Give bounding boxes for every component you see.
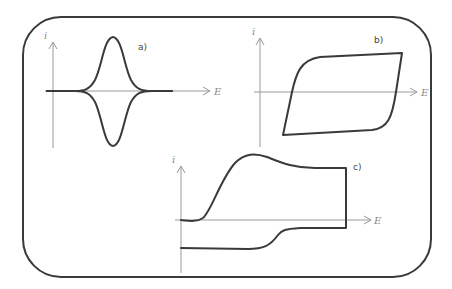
panel-a-label: a) — [138, 42, 147, 52]
panel-c-voltammogram — [181, 155, 346, 249]
panel-a: i E a) — [44, 30, 222, 148]
panel-a-y-axis-label: i — [44, 30, 47, 41]
panel-a-anodic-peak — [47, 37, 172, 91]
panel-c-label: c) — [353, 162, 361, 172]
panel-b-label: b) — [374, 35, 383, 45]
panel-b: i E b) — [252, 26, 429, 147]
panel-c-x-axis-label: E — [373, 215, 382, 226]
panel-b-x-axis-label: E — [420, 87, 429, 98]
panel-c-y-axis-label: i — [172, 154, 175, 165]
panel-b-y-axis-label: i — [252, 26, 255, 37]
panel-c: i E c) — [172, 154, 382, 273]
panel-a-cathodic-peak — [47, 91, 172, 146]
panel-b-capacitive-loop — [283, 53, 402, 135]
cyclic-voltammetry-diagram: i E a) i E b) i E c) — [0, 0, 452, 289]
outer-frame — [23, 17, 431, 277]
panel-a-x-axis-label: E — [213, 86, 222, 97]
